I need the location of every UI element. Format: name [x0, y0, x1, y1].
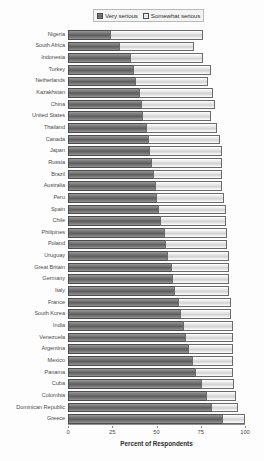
bar-row — [68, 343, 245, 355]
bar-row — [68, 52, 245, 64]
stacked-bar — [68, 100, 215, 110]
bar-segment-somewhat-serious — [222, 414, 245, 424]
x-tick-label: 100 — [240, 429, 250, 435]
x-axis-line — [68, 424, 245, 425]
bar-segment-somewhat-serious — [110, 30, 202, 40]
bar-row — [68, 367, 245, 379]
bar-segment-somewhat-serious — [151, 158, 222, 168]
stacked-bar — [68, 205, 226, 215]
bar-segment-very-serious — [68, 228, 164, 238]
bar-row — [68, 332, 245, 344]
bar-row — [68, 41, 245, 53]
bar-row — [68, 87, 245, 99]
stacked-bar — [68, 368, 233, 378]
bar-segment-somewhat-serious — [149, 146, 222, 156]
bar-row — [68, 122, 245, 134]
y-axis-label: Brazil — [0, 172, 65, 178]
plot-area — [68, 29, 245, 425]
bar-segment-very-serious — [68, 181, 155, 191]
stacked-bar — [68, 77, 208, 87]
bar-row — [68, 134, 245, 146]
x-tick-mark — [112, 426, 113, 428]
y-axis-label: Nigeria — [0, 32, 65, 38]
y-axis-label: Panama — [0, 370, 65, 376]
bar-row — [68, 297, 245, 309]
bar-row — [68, 402, 245, 414]
bar-row — [68, 64, 245, 76]
bar-row — [68, 227, 245, 239]
y-axis-label: Argentina — [0, 346, 65, 352]
stacked-bar — [68, 321, 233, 331]
bar-segment-very-serious — [68, 414, 222, 424]
bar-row — [68, 169, 245, 181]
stacked-bar — [68, 135, 220, 145]
bar-segment-somewhat-serious — [174, 286, 229, 296]
y-axis-label: South Africa — [0, 43, 65, 49]
bar-row — [68, 99, 245, 111]
legend-entry-somewhat-serious: Somewhat serious — [143, 12, 200, 19]
bar-segment-somewhat-serious — [119, 42, 193, 52]
bar-segment-very-serious — [68, 77, 135, 87]
stacked-bar — [68, 88, 213, 98]
x-axis-ticks: 0255075100 — [68, 426, 245, 436]
x-tick-mark — [245, 426, 246, 428]
bar-row — [68, 76, 245, 88]
y-axis-label: Germany — [0, 276, 65, 282]
bar-segment-somewhat-serious — [148, 135, 221, 145]
y-axis-label: France — [0, 300, 65, 306]
stacked-bar — [68, 146, 222, 156]
stacked-bar — [68, 123, 217, 133]
bar-segment-somewhat-serious — [183, 321, 233, 331]
stacked-bar — [68, 111, 211, 121]
stacked-bar — [68, 309, 231, 319]
bar-segment-very-serious — [68, 123, 146, 133]
bar-segment-very-serious — [68, 263, 171, 273]
bar-segment-somewhat-serious — [195, 368, 232, 378]
bar-segment-very-serious — [68, 403, 211, 413]
y-axis-label: Indonesia — [0, 55, 65, 61]
y-axis-label: Kazakhstan — [0, 90, 65, 96]
x-tick-label: 25 — [109, 429, 115, 435]
bar-segment-very-serious — [68, 379, 201, 389]
x-axis-title: Percent of Respondents — [68, 440, 245, 447]
stacked-bar — [68, 298, 231, 308]
bar-segment-very-serious — [68, 333, 185, 343]
y-axis-label: Netherlands — [0, 78, 65, 84]
chart-figure: Very serious Somewhat serious NigeriaSou… — [0, 0, 264, 461]
bar-segment-very-serious — [68, 240, 165, 250]
stacked-bar — [68, 333, 233, 343]
bar-segment-somewhat-serious — [172, 274, 229, 284]
y-axis-label: Cuba — [0, 381, 65, 387]
bar-segment-somewhat-serious — [164, 228, 228, 238]
y-axis-label: Thailand — [0, 125, 65, 131]
bar-row — [68, 390, 245, 402]
stacked-bar — [68, 274, 229, 284]
stacked-bar — [68, 30, 203, 40]
stacked-bar — [68, 170, 222, 180]
bar-row — [68, 308, 245, 320]
stacked-bar — [68, 251, 229, 261]
bar-row — [68, 215, 245, 227]
bar-row — [68, 180, 245, 192]
bar-segment-somewhat-serious — [156, 193, 223, 203]
y-axis-label: Philipines — [0, 230, 65, 236]
bar-segment-somewhat-serious — [180, 309, 231, 319]
y-axis-label: Mexico — [0, 358, 65, 364]
bar-segment-very-serious — [68, 321, 183, 331]
bar-segment-very-serious — [68, 193, 156, 203]
bar-segment-somewhat-serious — [165, 240, 227, 250]
bar-segment-very-serious — [68, 391, 206, 401]
bar-segment-somewhat-serious — [142, 111, 211, 121]
bar-segment-very-serious — [68, 158, 151, 168]
y-axis-label: Chile — [0, 218, 65, 224]
bar-segment-somewhat-serious — [201, 379, 235, 389]
bar-segment-somewhat-serious — [188, 344, 232, 354]
bar-segment-very-serious — [68, 88, 139, 98]
x-tick-mark — [68, 426, 69, 428]
stacked-bar — [68, 391, 236, 401]
bar-segment-somewhat-serious — [155, 181, 222, 191]
bar-row — [68, 262, 245, 274]
stacked-bar — [68, 414, 245, 424]
y-axis-label: Canada — [0, 137, 65, 143]
stacked-bar — [68, 42, 194, 52]
